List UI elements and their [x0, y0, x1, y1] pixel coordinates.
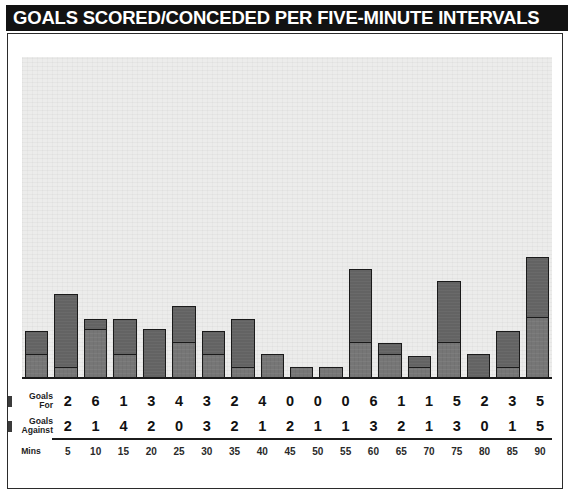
- cell-goals-for-50: 0: [304, 389, 332, 413]
- swatch-goals-for-icon: [8, 396, 12, 407]
- bar-segment-goals-against: [378, 354, 402, 379]
- cell-goals-against-45: 2: [276, 414, 304, 438]
- bar-segment-goals-for: [113, 319, 137, 356]
- bar-5-min: [25, 331, 49, 379]
- legend-goals-against-label: Goals Against: [13, 417, 53, 436]
- bar-75-min: [437, 281, 461, 379]
- cell-mins-75: 75: [443, 441, 471, 461]
- table-row-mins: Mins 51015202530354045505560657075808590: [8, 441, 554, 465]
- bar-80-min: [467, 354, 491, 379]
- cell-mins-65: 65: [387, 441, 415, 461]
- bar-60-min: [349, 269, 373, 379]
- cell-goals-against-5: 2: [54, 414, 82, 438]
- cell-mins-30: 30: [193, 441, 221, 461]
- cell-mins-15: 15: [110, 441, 138, 461]
- cell-goals-against-30: 3: [193, 414, 221, 438]
- bar-90-min: [526, 257, 550, 379]
- cell-goals-against-90: 5: [526, 414, 554, 438]
- cell-goals-against-50: 1: [304, 414, 332, 438]
- cell-mins-35: 35: [221, 441, 249, 461]
- cell-goals-for-40: 4: [248, 389, 276, 413]
- bar-segment-goals-for: [172, 306, 196, 343]
- table-row-goals-for: Goals For 261343240006115235: [8, 389, 554, 413]
- swatch-goals-against-icon: [8, 421, 12, 432]
- cells-goals-against: 214203212113213015: [54, 414, 554, 438]
- cell-goals-against-55: 1: [332, 414, 360, 438]
- cell-goals-against-15: 4: [110, 414, 138, 438]
- table-row-goals-against: Goals Against 214203212113213015: [8, 414, 554, 438]
- cell-goals-against-25: 0: [165, 414, 193, 438]
- cell-mins-5: 5: [54, 441, 82, 461]
- table-separator: [52, 438, 552, 440]
- cell-goals-against-10: 1: [82, 414, 110, 438]
- bar-25-min: [143, 329, 167, 379]
- bar-segment-goals-against: [526, 317, 550, 379]
- bar-70-min: [408, 356, 432, 379]
- cell-mins-10: 10: [82, 441, 110, 461]
- bar-segment-goals-for: [54, 294, 78, 368]
- chart-title-bar: GOALS SCORED/CONCEDED PER FIVE-MINUTE IN…: [6, 5, 568, 31]
- bar-segment-goals-for: [25, 331, 49, 356]
- data-table: Goals For 261343240006115235 Goals Again…: [8, 389, 554, 463]
- cell-goals-against-65: 2: [387, 414, 415, 438]
- cell-goals-for-65: 1: [387, 389, 415, 413]
- bar-segment-goals-against: [113, 354, 137, 379]
- mins-label-text: Mins: [21, 446, 41, 456]
- bar-10-min: [54, 294, 78, 379]
- cell-goals-for-10: 6: [82, 389, 110, 413]
- legend-goals-for-line1: Goals: [29, 391, 53, 401]
- bar-segment-goals-against: [261, 354, 285, 379]
- cell-goals-against-40: 1: [248, 414, 276, 438]
- cell-goals-for-20: 3: [137, 389, 165, 413]
- legend-goals-against: Goals Against: [8, 414, 54, 438]
- legend-goals-against-line1: Goals: [29, 416, 53, 426]
- cell-goals-for-90: 5: [526, 389, 554, 413]
- bar-45-min: [261, 356, 285, 379]
- cell-mins-50: 50: [304, 441, 332, 461]
- cell-goals-for-80: 2: [471, 389, 499, 413]
- bar-segment-goals-for: [349, 269, 373, 343]
- cells-goals-for: 261343240006115235: [54, 389, 554, 413]
- bar-segment-goals-against: [172, 342, 196, 379]
- bar-group: [22, 57, 552, 379]
- cell-mins-40: 40: [248, 441, 276, 461]
- bar-segment-goals-for: [231, 319, 255, 369]
- bar-35-min: [202, 331, 226, 379]
- bar-segment-goals-for: [437, 281, 461, 343]
- legend-goals-for-line2: For: [13, 401, 53, 411]
- cell-mins-25: 25: [165, 441, 193, 461]
- cell-goals-against-20: 2: [137, 414, 165, 438]
- cell-goals-against-80: 0: [471, 414, 499, 438]
- cell-goals-against-35: 2: [221, 414, 249, 438]
- cell-mins-90: 90: [526, 441, 554, 461]
- bar-segment-goals-against: [437, 342, 461, 379]
- cell-goals-for-60: 6: [360, 389, 388, 413]
- cell-mins-70: 70: [415, 441, 443, 461]
- bar-segment-goals-for: [202, 331, 226, 356]
- x-axis-baseline: [22, 377, 552, 379]
- cell-mins-45: 45: [276, 441, 304, 461]
- cell-mins-85: 85: [498, 441, 526, 461]
- bar-segment-goals-for: [467, 354, 491, 379]
- page-title: GOALS SCORED/CONCEDED PER FIVE-MINUTE IN…: [6, 7, 539, 29]
- cell-goals-against-70: 1: [415, 414, 443, 438]
- bar-40-min: [231, 319, 255, 379]
- cell-goals-for-15: 1: [110, 389, 138, 413]
- cell-mins-55: 55: [332, 441, 360, 461]
- mins-row-label: Mins: [8, 441, 54, 461]
- cell-goals-for-25: 4: [165, 389, 193, 413]
- bar-segment-goals-for: [143, 329, 167, 379]
- bar-65-min: [378, 343, 402, 379]
- bar-15-min: [84, 319, 108, 379]
- cell-goals-for-70: 1: [415, 389, 443, 413]
- legend-goals-for: Goals For: [8, 389, 54, 413]
- cell-mins-80: 80: [471, 441, 499, 461]
- legend-goals-against-line2: Against: [13, 426, 53, 436]
- bar-20-min: [113, 319, 137, 379]
- cell-mins-60: 60: [360, 441, 388, 461]
- cells-mins: 51015202530354045505560657075808590: [54, 441, 554, 465]
- bar-segment-goals-against: [25, 354, 49, 379]
- cell-goals-against-75: 3: [443, 414, 471, 438]
- cell-goals-for-85: 3: [498, 389, 526, 413]
- bar-85-min: [496, 331, 520, 379]
